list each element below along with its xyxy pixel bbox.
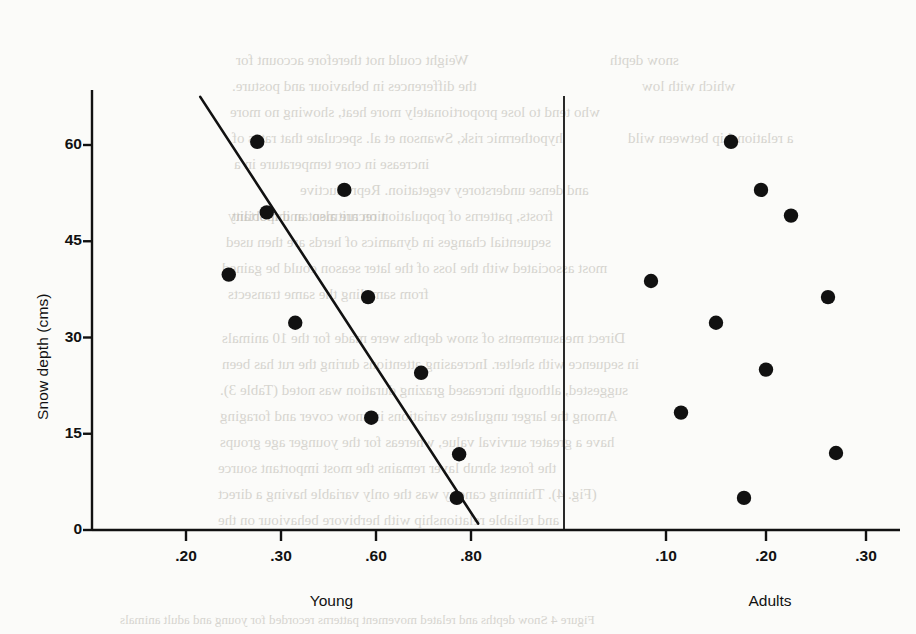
data-point: [364, 411, 378, 425]
data-point: [452, 447, 466, 461]
data-point: [414, 366, 428, 380]
data-point: [821, 290, 835, 304]
y-axis-title: Snow depth (cms): [34, 293, 52, 420]
y-tick-label: 45: [40, 231, 82, 249]
x-tick-label: .30: [836, 547, 896, 565]
data-point: [250, 135, 264, 149]
x-tick-label: .60: [346, 547, 406, 565]
y-tick-label: 0: [40, 520, 82, 538]
data-point: [260, 205, 274, 219]
x-tick-label: .80: [441, 547, 501, 565]
x-tick-label: .30: [251, 547, 311, 565]
regression-line: [200, 97, 478, 524]
data-point: [754, 183, 768, 197]
scatter-plot-canvas: [0, 0, 916, 634]
x-tick-label: .20: [156, 547, 216, 565]
data-point: [759, 362, 773, 376]
data-point: [674, 405, 688, 419]
data-point: [644, 274, 658, 288]
y-tick-label: 30: [40, 328, 82, 346]
data-point: [361, 290, 375, 304]
panel-caption-young: Young: [252, 592, 412, 610]
figure-container: Weight could not therefore account forsn…: [0, 0, 916, 634]
y-tick-label: 15: [40, 424, 82, 442]
panel-caption-adults: Adults: [690, 592, 850, 610]
data-point: [222, 267, 236, 281]
x-tick-label: .20: [736, 547, 796, 565]
data-point: [709, 316, 723, 330]
data-point: [450, 491, 464, 505]
y-tick-label: 60: [40, 135, 82, 153]
data-point: [737, 491, 751, 505]
data-point: [829, 446, 843, 460]
data-point: [724, 135, 738, 149]
data-point: [784, 208, 798, 222]
x-tick-label: .10: [636, 547, 696, 565]
data-point: [337, 183, 351, 197]
data-point: [288, 316, 302, 330]
